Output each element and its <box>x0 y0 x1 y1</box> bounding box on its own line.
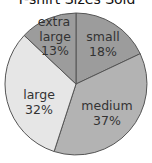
label-medium-name: medium <box>81 98 132 113</box>
label-medium-pct: 37% <box>93 113 121 128</box>
label-large-name: large <box>23 87 55 102</box>
label-extra-large-pct: 13% <box>41 43 69 58</box>
label-small-pct: 18% <box>89 44 117 59</box>
label-extra-large-line1: extra <box>38 14 71 29</box>
pie-chart: extra large 13% small 18% large 32% medi… <box>0 0 152 163</box>
label-small-name: small <box>86 29 119 44</box>
label-extra-large-line2: large <box>39 29 71 44</box>
label-large-pct: 32% <box>25 102 53 117</box>
